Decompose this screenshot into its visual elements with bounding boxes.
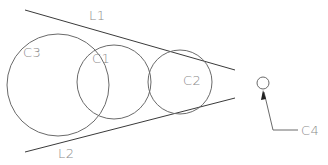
c4-leader-line [264,92,298,130]
diagram-canvas: L1 L2 C3 C1 C2 C4 [0,0,328,165]
circle-c4 [257,77,269,89]
label-c3: C3 [23,45,41,60]
label-c1: C1 [92,51,110,66]
label-c2: C2 [183,73,201,88]
label-l1: L1 [89,8,106,23]
circle-c1 [77,45,151,119]
c4-arrowhead-icon [261,90,266,100]
circle-c2 [148,50,212,114]
label-l2: L2 [58,146,75,161]
line-l2 [25,98,235,152]
label-c4: C4 [301,123,319,138]
